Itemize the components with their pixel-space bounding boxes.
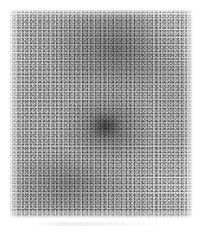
scanner-smudge — [34, 222, 162, 226]
grayscale-grain-texture — [9, 9, 193, 218]
page-canvas — [0, 0, 204, 233]
grain-coarse-layer — [9, 9, 193, 218]
